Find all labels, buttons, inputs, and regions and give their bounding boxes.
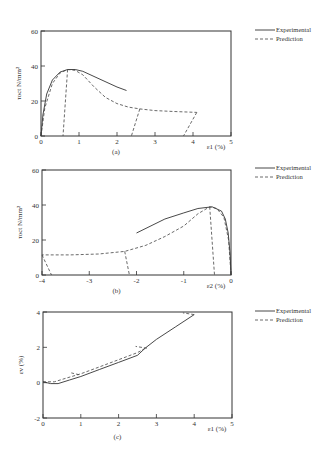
chart-panel-b: -4-3-2-100204060ε2 (%)τoct N/mm²(b)Exper… [16, 164, 311, 295]
x-tick-label: 3 [153, 138, 157, 146]
x-tick-label: 4 [191, 138, 195, 146]
x-tick-label: 5 [229, 138, 233, 146]
plot-frame [42, 170, 231, 275]
experimental-curve [137, 207, 232, 275]
y-tick-label: -2 [34, 415, 40, 423]
prediction-curve [125, 251, 130, 275]
y-axis-label: τoct N/mm² [16, 206, 24, 239]
x-tick-label: -1 [181, 277, 187, 285]
prediction-curve [136, 346, 147, 348]
x-axis-label: ε1 (%) [207, 143, 226, 151]
y-tick-label: 20 [32, 237, 40, 245]
plot-frame [43, 312, 232, 418]
prediction-curve [131, 109, 139, 136]
y-axis-label: τoct N/mm² [15, 67, 23, 100]
experimental-curve [43, 315, 194, 384]
x-tick-label: 1 [79, 420, 83, 428]
x-tick-label: 0 [41, 420, 45, 428]
y-tick-label: 20 [31, 98, 39, 106]
x-axis-label: ε2 (%) [207, 282, 226, 290]
prediction-curve [71, 373, 79, 375]
prediction-curve [184, 112, 197, 136]
panel-caption: (b) [112, 287, 121, 295]
prediction-curve [210, 207, 215, 275]
panel-caption: (a) [112, 148, 120, 156]
y-tick-label: 0 [36, 272, 40, 280]
x-tick-label: 3 [155, 420, 159, 428]
prediction-curve [42, 207, 231, 275]
x-tick-label: 4 [192, 420, 196, 428]
y-tick-label: 60 [31, 28, 39, 36]
figure: 0123450204060ε1 (%)τoct N/mm²(a)Experime… [0, 0, 332, 466]
y-tick-label: 0 [37, 379, 41, 387]
x-tick-label: -2 [134, 277, 140, 285]
legend-experimental-label: Experimental [276, 307, 311, 314]
y-axis-label: εv (%) [17, 355, 25, 374]
y-tick-label: 40 [32, 202, 40, 210]
prediction-curve [183, 313, 194, 315]
chart-panel-a: 0123450204060ε1 (%)τoct N/mm²(a)Experime… [15, 26, 311, 156]
y-tick-label: 0 [35, 133, 39, 141]
panel-caption: (c) [114, 433, 122, 441]
y-tick-label: 2 [37, 344, 41, 352]
prediction-curve [43, 347, 147, 382]
legend-experimental-label: Experimental [276, 26, 311, 33]
prediction-curve [42, 255, 52, 275]
prediction-curve [41, 70, 197, 137]
x-axis-label: ε1 (%) [208, 425, 227, 433]
experimental-curve [41, 70, 127, 137]
legend-prediction-label: Prediction [276, 173, 303, 180]
y-tick-label: 40 [31, 63, 39, 71]
legend-prediction-label: Prediction [276, 316, 303, 323]
prediction-curve [63, 70, 68, 137]
y-tick-label: 4 [37, 309, 41, 317]
x-tick-label: 0 [229, 277, 233, 285]
x-tick-label: 5 [230, 420, 234, 428]
x-tick-label: -3 [86, 277, 92, 285]
x-tick-label: 2 [115, 138, 119, 146]
x-tick-label: 0 [39, 138, 43, 146]
y-tick-label: 60 [32, 167, 40, 175]
legend-prediction-label: Prediction [276, 35, 303, 42]
x-tick-label: -4 [39, 277, 45, 285]
legend-experimental-label: Experimental [276, 164, 311, 171]
chart-panel-c: 012345-2024ε1 (%)εv (%)(c)ExperimentalPr… [17, 307, 311, 441]
x-tick-label: 1 [77, 138, 81, 146]
x-tick-label: 2 [117, 420, 121, 428]
